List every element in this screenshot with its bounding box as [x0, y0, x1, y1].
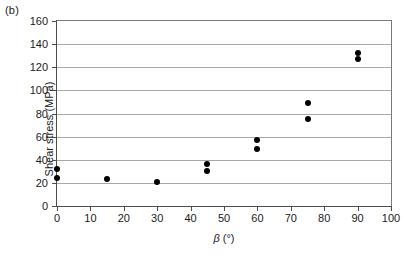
y-tick-label-140: 140: [30, 38, 48, 50]
x-tick-40: [191, 206, 192, 211]
x-tick-label-30: 30: [151, 212, 163, 224]
gridline-y-60: [57, 137, 391, 138]
y-tick-label-0: 0: [42, 200, 48, 212]
x-tick-label-10: 10: [84, 212, 96, 224]
x-tick-label-40: 40: [184, 212, 196, 224]
x-tick-60: [257, 206, 258, 211]
panel-label: (b): [5, 4, 19, 16]
x-axis-title-unit: (°): [223, 232, 235, 244]
gridline-y-140: [57, 44, 391, 45]
x-tick-label-100: 100: [382, 212, 400, 224]
y-tick-label-80: 80: [36, 108, 48, 120]
gridline-y-40: [57, 160, 391, 161]
y-tick-label-100: 100: [30, 84, 48, 96]
gridline-y-20: [57, 183, 391, 184]
gridline-y-100: [57, 90, 391, 91]
data-point: [254, 137, 260, 143]
x-axis-title-symbol: β: [213, 232, 219, 244]
gridline-y-80: [57, 114, 391, 115]
y-tick-label-20: 20: [36, 177, 48, 189]
y-tick-20: [52, 183, 57, 184]
x-tick-20: [124, 206, 125, 211]
data-point: [305, 100, 311, 106]
x-tick-label-50: 50: [218, 212, 230, 224]
data-point: [204, 161, 210, 167]
figure-panel-b: (b) Shear stress (MPa) β (°) 02040608010…: [0, 0, 405, 257]
x-tick-50: [224, 206, 225, 211]
x-tick-90: [358, 206, 359, 211]
x-tick-label-0: 0: [54, 212, 60, 224]
data-point: [104, 176, 110, 182]
x-tick-label-20: 20: [118, 212, 130, 224]
y-tick-40: [52, 160, 57, 161]
data-point: [204, 168, 210, 174]
y-tick-80: [52, 114, 57, 115]
x-tick-label-70: 70: [285, 212, 297, 224]
data-point: [154, 179, 160, 185]
y-tick-120: [52, 67, 57, 68]
x-tick-0: [57, 206, 58, 211]
x-tick-70: [291, 206, 292, 211]
y-tick-label-60: 60: [36, 131, 48, 143]
data-point: [54, 166, 60, 172]
x-tick-30: [157, 206, 158, 211]
y-tick-160: [52, 21, 57, 22]
gridline-y-120: [57, 67, 391, 68]
x-tick-80: [324, 206, 325, 211]
x-tick-100: [391, 206, 392, 211]
data-point: [355, 56, 361, 62]
y-tick-60: [52, 137, 57, 138]
y-tick-label-40: 40: [36, 154, 48, 166]
x-tick-label-60: 60: [251, 212, 263, 224]
data-point: [54, 175, 60, 181]
plot-area: 0204060801001201401600102030405060708090…: [56, 20, 392, 207]
x-tick-label-90: 90: [351, 212, 363, 224]
x-tick-10: [90, 206, 91, 211]
x-tick-label-80: 80: [318, 212, 330, 224]
x-axis-title: β (°): [56, 232, 392, 244]
y-tick-label-160: 160: [30, 15, 48, 27]
y-tick-100: [52, 90, 57, 91]
data-point: [305, 116, 311, 122]
data-point: [254, 146, 260, 152]
y-tick-140: [52, 44, 57, 45]
y-tick-label-120: 120: [30, 61, 48, 73]
